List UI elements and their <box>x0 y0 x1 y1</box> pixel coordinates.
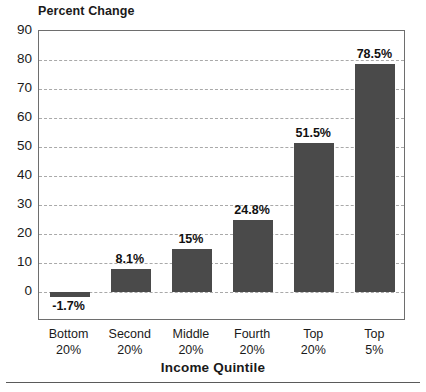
y-axis-tick-label: 50 <box>6 139 32 153</box>
x-axis-category-label: Top5% <box>334 327 414 358</box>
gridline <box>39 292 404 293</box>
plot-area <box>38 30 405 320</box>
bar-value-label: 15% <box>156 233 226 246</box>
bar-value-label: 8.1% <box>95 253 165 266</box>
bar-value-label: 78.5% <box>339 48 409 61</box>
gridline <box>39 147 404 148</box>
bottom-divider <box>6 382 420 383</box>
x-axis-title: Income Quintile <box>0 360 426 375</box>
bar-value-label: 51.5% <box>278 127 348 140</box>
y-axis-tick-label: 0 <box>6 284 32 298</box>
category-label-line: Top <box>303 327 323 341</box>
bar <box>294 143 334 292</box>
bar <box>233 220 273 292</box>
bar <box>111 269 151 292</box>
category-label-line: Fourth <box>234 327 270 341</box>
gridline <box>39 89 404 90</box>
category-label-line: Middle <box>172 327 209 341</box>
bar-chart-figure: Percent Change 0102030405060708090 -1.7%… <box>0 0 426 392</box>
gridline <box>39 263 404 264</box>
gridline <box>39 118 404 119</box>
y-axis-tick-label: 40 <box>6 168 32 182</box>
category-label-line: Second <box>109 327 151 341</box>
gridline <box>39 176 404 177</box>
category-label-line: 5% <box>334 343 414 359</box>
y-axis-tick-label: 90 <box>6 23 32 37</box>
y-axis-tick-label: 20 <box>6 226 32 240</box>
bar <box>355 64 395 292</box>
y-axis-tick-label: 80 <box>6 52 32 66</box>
y-axis-tick-label: 10 <box>6 255 32 269</box>
category-label-line: Bottom <box>49 327 89 341</box>
bar-value-label: -1.7% <box>34 300 104 313</box>
y-axis-tick-label: 60 <box>6 110 32 124</box>
y-axis-tick-label: 30 <box>6 197 32 211</box>
category-label-line: Top <box>364 327 384 341</box>
bar-value-label: 24.8% <box>217 204 287 217</box>
y-axis-tick-label: 70 <box>6 81 32 95</box>
y-axis-title: Percent Change <box>38 4 135 18</box>
bar <box>172 249 212 293</box>
bar <box>50 292 90 297</box>
